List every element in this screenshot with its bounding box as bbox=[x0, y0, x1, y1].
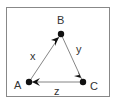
node-label-B: B bbox=[57, 14, 64, 26]
node-C bbox=[80, 79, 86, 85]
arrowhead-x-icon bbox=[51, 37, 59, 46]
triangle-diagram: B A C x y z bbox=[0, 0, 117, 102]
edge-label-y: y bbox=[76, 43, 82, 55]
node-label-C: C bbox=[90, 80, 98, 92]
edge-label-z: z bbox=[54, 85, 60, 97]
edge-y-line bbox=[61, 34, 83, 82]
edge-label-x: x bbox=[30, 50, 36, 62]
node-A bbox=[26, 79, 32, 85]
node-B bbox=[58, 31, 64, 37]
node-label-A: A bbox=[14, 79, 22, 91]
